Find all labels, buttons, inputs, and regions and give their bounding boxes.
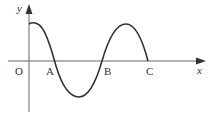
sine-curve: [29, 23, 148, 97]
y-axis-label: y: [16, 2, 22, 14]
x-axis-label: x: [196, 64, 202, 76]
origin-label: O: [15, 65, 23, 77]
point-a-label: A: [46, 65, 54, 77]
point-b-label: B: [104, 65, 111, 77]
y-axis-arrow-icon: [26, 4, 33, 14]
point-c-label: C: [146, 65, 153, 77]
sine-graph: y x O A B C: [0, 0, 210, 121]
